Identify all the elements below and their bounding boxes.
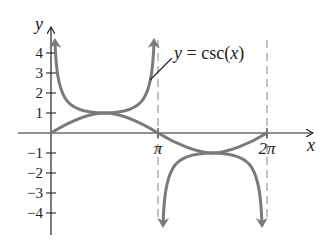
csc-chart: 4 3 2 1 −1 −2 −3 −4 π 2π y x y = csc(x) <box>0 0 334 243</box>
y-axis-label: y <box>33 14 43 34</box>
annotation-y: y <box>172 43 182 63</box>
x-tick-pi: π <box>154 139 163 158</box>
csc-curve-right <box>163 153 213 224</box>
y-tick-1: 1 <box>36 105 44 121</box>
y-tick-m1: −1 <box>27 145 43 161</box>
y-tick-m2: −2 <box>27 165 43 181</box>
x-tick-2pi: 2π <box>258 139 276 158</box>
csc-curve-right-right <box>213 153 263 224</box>
x-axis-label: x <box>306 135 315 155</box>
csc-curve-left <box>55 42 105 113</box>
csc-curve-left-right <box>105 42 155 113</box>
y-tick-m3: −3 <box>27 185 43 201</box>
y-tick-3: 3 <box>36 65 44 81</box>
y-tick-2: 2 <box>36 85 44 101</box>
annotation-close: ) <box>238 43 244 64</box>
y-tick-4: 4 <box>36 45 44 61</box>
annotation-label: y = csc(x) <box>172 43 244 64</box>
annotation-var: x <box>229 43 238 63</box>
y-tick-m4: −4 <box>27 205 43 221</box>
annotation-eq: = csc( <box>182 43 230 64</box>
